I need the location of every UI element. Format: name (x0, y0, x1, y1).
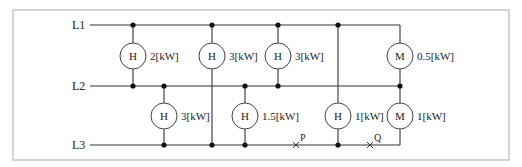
junction-dot (275, 83, 280, 88)
load-type: H (334, 110, 342, 122)
line-label: L3 (72, 138, 85, 152)
load-rating: 1.5[kW] (262, 110, 299, 122)
load-rating: 3[kW] (295, 50, 324, 62)
load-rating: 0.5[kW] (417, 50, 454, 62)
load-type: H (274, 50, 282, 62)
junction-dot (335, 142, 340, 147)
junction-dot (161, 142, 166, 147)
load-type: H (241, 110, 249, 122)
load-type: H (208, 50, 216, 62)
point-label: Q (374, 132, 382, 143)
load-rating: 3[kW] (229, 50, 258, 62)
load-type: H (129, 50, 137, 62)
line-label: L2 (72, 79, 85, 93)
junction-dot (397, 83, 402, 88)
junction-dot (130, 83, 135, 88)
circuit-diagram: H2[kW]H3[kW]H3[kW]M0.5[kW]H3[kW]H1.5[kW]… (0, 0, 522, 167)
load-type: H (160, 110, 168, 122)
load-rating: 1[kW] (355, 110, 384, 122)
load-rating: 3[kW] (181, 110, 210, 122)
load-rating: 1[kW] (417, 110, 446, 122)
diagram-frame (13, 10, 509, 160)
junction-dot (130, 22, 135, 27)
load-type: M (395, 50, 405, 62)
junction-dot (209, 22, 214, 27)
junction-dot (209, 142, 214, 147)
junction-dot (242, 142, 247, 147)
load-rating: 2[kW] (150, 50, 179, 62)
junction-dot (161, 83, 166, 88)
point-label: P (300, 132, 306, 143)
junction-dot (242, 83, 247, 88)
load-type: M (395, 110, 405, 122)
junction-dot (335, 22, 340, 27)
junction-dot (275, 22, 280, 27)
line-label: L1 (72, 18, 85, 32)
